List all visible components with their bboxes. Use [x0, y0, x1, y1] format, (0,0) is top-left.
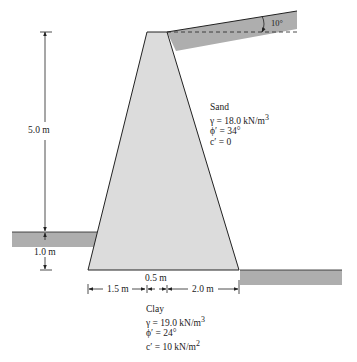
top-width-label: 0.5 m: [145, 273, 167, 284]
front-soil: [12, 232, 97, 247]
foundation-friction-angle: ϕ′ = 24°: [146, 328, 205, 339]
backfill-properties: Sand γ = 18.0 kN/m3 ϕ′ = 34° c′ = 0: [210, 102, 269, 147]
backfill-friction-angle: ϕ′ = 34°: [210, 126, 269, 137]
foundation-soil-strip: [240, 270, 342, 285]
backfill-soil: [167, 11, 297, 51]
heel-width-label: 2.0 m: [192, 284, 214, 295]
embedment-depth-label: 1.0 m: [34, 247, 56, 258]
gravity-wall: [88, 32, 239, 270]
backfill-unit-weight: γ = 18.0 kN/m: [210, 116, 265, 126]
toe-width-label: 1.5 m: [107, 284, 129, 295]
backfill-title: Sand: [210, 102, 269, 113]
foundation-title: Clay: [146, 304, 205, 315]
slope-angle-label: 10°: [271, 18, 283, 29]
foundation-properties: Clay γ = 19.0 kN/m3 ϕ′ = 24° c′ = 10 kN/…: [146, 304, 205, 352]
backfill-cohesion: c′ = 0: [210, 137, 269, 148]
wall-height-label: 5.0 m: [28, 125, 50, 136]
foundation-unit-weight: γ = 19.0 kN/m: [146, 318, 201, 328]
foundation-cohesion: c′ = 10 kN/m: [146, 342, 196, 352]
